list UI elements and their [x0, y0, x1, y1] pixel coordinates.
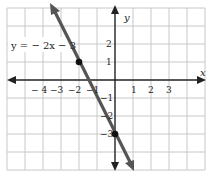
y-axis	[111, 5, 119, 171]
y-axis-up-arrow-icon	[111, 5, 119, 14]
y-axis-label: y	[123, 12, 130, 23]
y-tick: −1	[100, 93, 113, 103]
y-tick: 1	[106, 57, 112, 67]
equation-label: y = − 2x − 3	[10, 40, 76, 51]
y-tick: 2	[106, 39, 112, 49]
x-tick: −3	[50, 85, 64, 95]
x-tick: −1	[86, 85, 99, 95]
coordinate-plane: y = − 2x − 3 x y − 4 −3 −2 −1 1 2 3 2 1 …	[0, 0, 213, 174]
x-tick: − 4	[31, 85, 47, 95]
line-bottom-arrow-icon	[125, 160, 134, 171]
x-tick: −2	[68, 85, 81, 95]
x-axis	[7, 76, 206, 84]
x-tick: 3	[166, 85, 172, 95]
x-axis-label: x	[200, 67, 206, 78]
x-tick: 1	[131, 85, 137, 95]
point-neg2-1	[76, 59, 83, 66]
line-top-arrow-icon	[50, 3, 60, 15]
y-tick: −2	[100, 111, 113, 121]
x-axis-left-arrow-icon	[7, 76, 16, 84]
y-tick: −3	[100, 129, 114, 139]
x-tick: 2	[148, 85, 154, 95]
